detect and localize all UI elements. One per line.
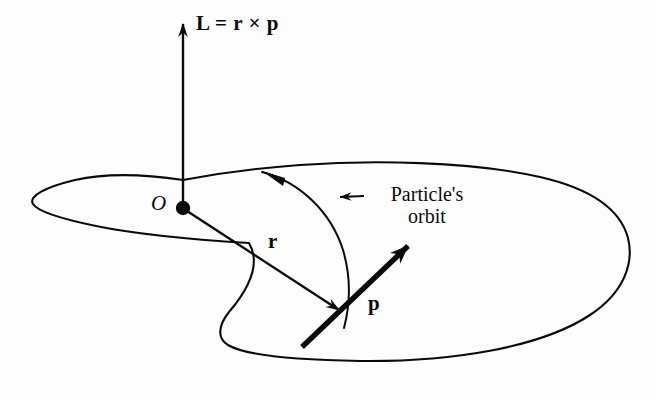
particle-orbit-callout-line1: Particle's bbox=[391, 183, 463, 205]
position-vector-label: r bbox=[268, 230, 277, 254]
particle-orbit-callout-label: Particle's orbit bbox=[367, 183, 487, 228]
origin-label: O bbox=[151, 192, 166, 216]
orbit-callout-leader-line bbox=[340, 196, 364, 197]
position-vector-arrow bbox=[187, 211, 339, 310]
particle-orbit-callout-line2: orbit bbox=[367, 205, 487, 227]
orbit-direction-arrowhead bbox=[262, 171, 285, 186]
momentum-vector-label: p bbox=[368, 292, 380, 316]
angular-momentum-diagram: L = r × p O r p Particle's orbit bbox=[0, 0, 655, 399]
particle-orbit-curve bbox=[32, 162, 630, 361]
angular-momentum-equation-label: L = r × p bbox=[196, 12, 279, 36]
diagram-canvas bbox=[0, 0, 655, 399]
